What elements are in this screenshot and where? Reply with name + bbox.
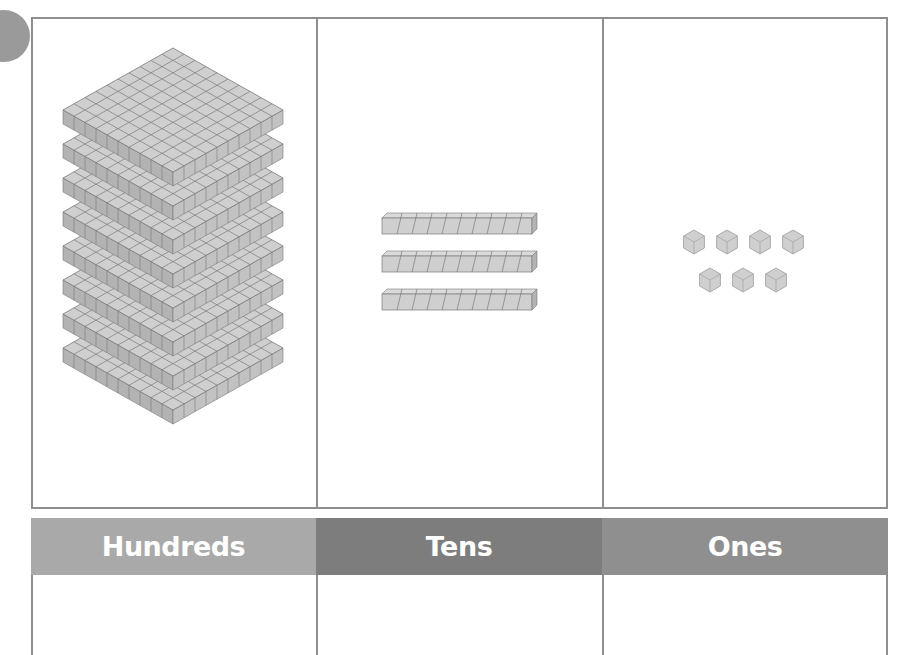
column-divider (316, 19, 318, 507)
tens-blocks (378, 205, 543, 320)
place-value-header-row: Hundreds Tens Ones (31, 518, 888, 575)
hundreds-flat-stack-icon (55, 40, 295, 480)
ones-cubes-icon (680, 228, 815, 300)
header-hundreds: Hundreds (31, 518, 316, 575)
question-number-badge (0, 10, 30, 62)
header-tens: Tens (316, 518, 602, 575)
answer-cell-tens[interactable] (318, 575, 602, 655)
hundreds-blocks (55, 40, 295, 480)
column-divider (602, 19, 604, 507)
answer-cell-hundreds[interactable] (33, 575, 316, 655)
header-ones: Ones (602, 518, 888, 575)
answer-cell-ones[interactable] (604, 575, 888, 655)
tens-rods-icon (378, 205, 543, 320)
ones-blocks (680, 228, 815, 300)
answer-row (31, 575, 888, 655)
